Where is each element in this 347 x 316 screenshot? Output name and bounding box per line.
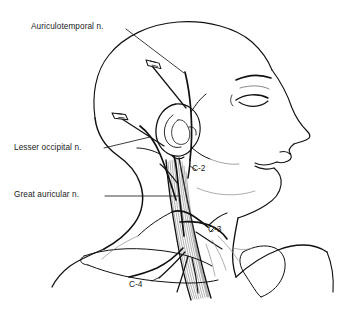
nerve-lesser-occipital-branch (137, 148, 160, 154)
ear-helix (156, 104, 192, 156)
anatomical-figure: Auriculotemporal n. Lesser occipital n. … (0, 0, 347, 316)
lip-lower (255, 166, 274, 169)
label-segment-c2: C-2 (192, 163, 206, 173)
scm-hatching (168, 159, 209, 299)
label-lesser-occipital-nerve: Lesser occipital n. (14, 143, 81, 152)
label-great-auricular-nerve: Great auricular n. (14, 190, 79, 199)
leader-lesser-occipital (104, 137, 150, 148)
nerve-supraclav-branch-medial (177, 256, 188, 292)
illustration-canvas (0, 0, 347, 316)
nostril (280, 152, 290, 154)
jaw-lower-faint (197, 188, 255, 195)
supraclav-fossa-faint-3 (206, 244, 215, 276)
label-segment-c4: C-4 (129, 279, 143, 289)
clavicle-right-lower (240, 252, 261, 297)
eye-inner-corner (231, 95, 233, 106)
eye-closed-lash (239, 101, 268, 106)
ear-concha (172, 120, 190, 145)
chin-contour (238, 168, 281, 218)
clavicle-right-upper (243, 246, 285, 297)
nerve-auriculotemporal-branch (191, 94, 206, 112)
eye-crease (240, 86, 269, 89)
needle-hub-upper (144, 55, 163, 73)
shoulder-slope-anterior (236, 245, 327, 277)
shoulder-deltoid (327, 252, 333, 292)
eyelid-upper (236, 95, 268, 100)
neck-anterior-border (233, 218, 238, 277)
nerve-auriculotemporal (185, 72, 192, 160)
label-segment-c3: C-3 (208, 224, 222, 234)
jaw-angle-faint (210, 159, 239, 164)
mastoid-jaw-line (192, 148, 210, 159)
nerve-root-c2 (188, 160, 190, 178)
mouth-lips (255, 162, 277, 165)
nerve-c3-lower-branch (196, 232, 222, 249)
label-auriculotemporal-nerve: Auriculotemporal n. (31, 22, 103, 31)
leader-c4 (152, 277, 160, 281)
face-forehead-nose (272, 70, 310, 144)
eyebrow (236, 76, 271, 80)
needle-shaft-upper (152, 66, 186, 108)
nose-tip (277, 144, 294, 163)
nerve-posterior-branches (138, 212, 172, 236)
occiput-neck-posterior (95, 118, 143, 249)
